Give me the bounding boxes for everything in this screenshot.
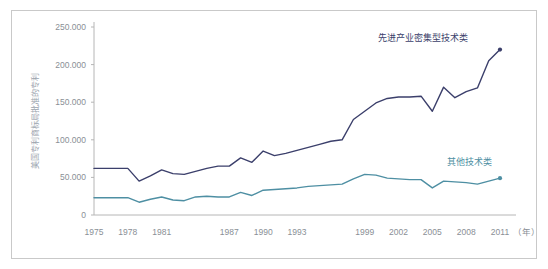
x-tick-label: 2005 [423,227,442,237]
y-tick-label: 150.000 [55,97,86,107]
x-tick-label: 1990 [254,227,273,237]
x-unit-label: （年） [513,227,540,237]
chart-figure: 美国专利商标局批准的专利 050.000100.000150.000200.00… [0,0,548,269]
line-chart: 美国专利商标局批准的专利 050.000100.000150.000200.00… [0,0,548,269]
x-tick-label: 1978 [118,227,137,237]
x-axis-tick-labels: 1975197819811987199019931999200220052008… [85,227,510,237]
series-annotation-1: 先进产业密集型技术类 [378,32,468,43]
x-tick-label: 1981 [152,227,171,237]
series-end-marker-1 [498,47,502,51]
series-annotation-2: 其他技术类 [447,156,492,167]
y-axis-label: 美国专利商标局批准的专利 [30,73,40,169]
x-tick-label: 1987 [220,227,239,237]
series-line-2 [94,174,500,202]
axis-lines [91,22,516,215]
y-tick-label: 0 [81,210,86,220]
x-tick-label: 1999 [355,227,374,237]
x-axis-unit-label: （年） [513,227,540,237]
x-tick-label: 1993 [288,227,307,237]
series-annotations: 先进产业密集型技术类其他技术类 [378,32,492,168]
series-line-1 [94,50,500,182]
x-tick-label: 1975 [85,227,104,237]
y-axis-tick-labels: 050.000100.000150.000200.000250.000 [55,22,86,220]
x-tick-label: 2002 [389,227,408,237]
y-tick-label: 200.000 [55,60,86,70]
y-axis-title: 美国专利商标局批准的专利 [30,73,40,169]
series-end-marker-2 [498,176,502,180]
data-series [94,47,502,202]
y-tick-label: 250.000 [55,22,86,32]
x-tick-label: 2008 [457,227,476,237]
y-tick-label: 50.000 [60,172,86,182]
y-tick-label: 100.000 [55,135,86,145]
x-tick-label: 2011 [491,227,510,237]
